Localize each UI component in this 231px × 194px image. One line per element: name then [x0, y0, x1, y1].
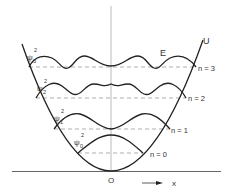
svg-text:1: 1	[60, 119, 63, 125]
svg-text:2: 2	[34, 47, 37, 53]
potential-label: U	[203, 36, 210, 46]
svg-text:3: 3	[33, 58, 36, 64]
svg-text:2: 2	[44, 78, 47, 84]
svg-text:2: 2	[61, 108, 64, 114]
origin-label: O	[108, 176, 114, 185]
n0-label: n = 0	[150, 150, 167, 159]
psi1-squared-curve	[54, 114, 170, 129]
n2-label: n = 2	[188, 94, 205, 103]
psi1-label: ψ 2 1	[54, 108, 64, 125]
svg-text:2: 2	[43, 89, 46, 95]
n1-label: n = 1	[171, 126, 188, 135]
psi3-squared-curve	[29, 56, 196, 68]
psi0-squared-curve	[78, 135, 143, 153]
x-axis-label: x	[172, 179, 176, 188]
n3-label: n = 3	[198, 64, 215, 73]
energy-label: E	[160, 48, 166, 58]
svg-text:2: 2	[81, 132, 84, 138]
harmonic-oscillator-diagram: E U O x n = 3 n = 2 n = 1 n = 0 ψ 2 3 ψ …	[0, 0, 231, 194]
psi0-label: ψ 2 0	[74, 132, 84, 149]
psi3-label: ψ 2 3	[27, 47, 37, 64]
x-arrow-icon	[156, 181, 163, 185]
svg-text:0: 0	[80, 143, 83, 149]
energy-levels	[29, 67, 196, 153]
potential-curve	[22, 40, 203, 171]
